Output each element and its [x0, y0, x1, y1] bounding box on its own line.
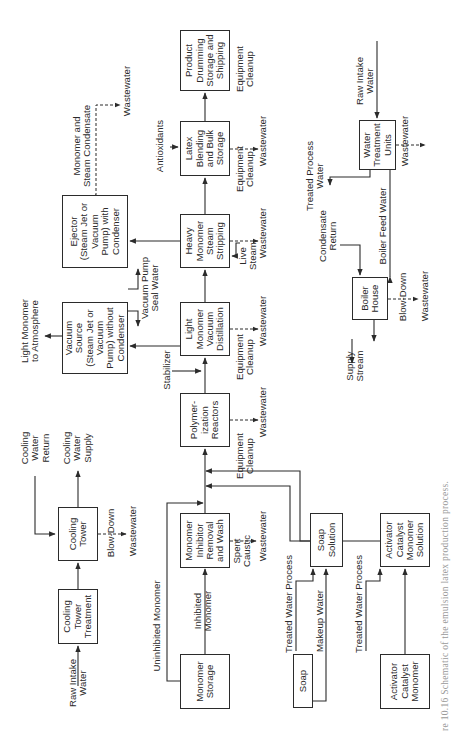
- label-uninhibited-monomer: Uninhibited Monomer: [152, 571, 162, 681]
- unit-ejector: Ejector (Steam Jet or Vacuum Pump) with …: [62, 195, 128, 268]
- unit-activator-catalyst-monomer: Activator Catalyst Monomer: [380, 654, 430, 709]
- label-equipment-cleanup-light: Equipment Cleanup: [235, 327, 256, 387]
- label-monomer-steam-condensate: Monomer and Steam Condensate: [72, 96, 93, 196]
- label-supply-stream: Supply Stream: [345, 346, 366, 386]
- unit-water-treatment: Water Treatment Units: [359, 120, 396, 170]
- unit-cooling-tower-treatment: Cooling Tower Treatment: [58, 589, 98, 644]
- unit-latex-blending: Latex Blending and Bulk Storage: [180, 121, 230, 176]
- label-treated-process-water: Treated Process Water: [305, 136, 326, 216]
- label-stabilizer: Stabilizer: [162, 345, 172, 395]
- label-blow-down-boiler: Blow-Down: [398, 269, 408, 325]
- label-equipment-cleanup-latex: Equipment Cleanup: [235, 39, 256, 99]
- label-spent-caustic: Spent Caustic: [232, 531, 253, 571]
- unit-soap-solution: Soap Solution: [310, 513, 343, 567]
- label-cooling-water-supply: Cooling Water Supply: [62, 423, 93, 473]
- unit-cooling-tower: Cooling Tower: [58, 507, 98, 561]
- unit-monomer-storage: Monomer Storage: [180, 654, 230, 709]
- unit-product-drumming: Product Drumming Storage and Shipping: [180, 30, 230, 91]
- label-light-monomer-atmosphere: Light Monomer to Atmosphere: [20, 286, 41, 376]
- unit-soap: Soap: [293, 654, 313, 708]
- label-blow-down-cooling: Blow-Down: [106, 505, 116, 561]
- label-condensate-return: Condensate Return: [318, 206, 339, 266]
- label-wastewater-boiler: Wastewater: [420, 266, 430, 326]
- label-wastewater-latex: Wastewater: [258, 111, 268, 171]
- label-wastewater-heavy: Wastewater: [258, 203, 268, 263]
- label-equipment-cleanup-reactor: Equipment Cleanup: [235, 426, 256, 486]
- label-wastewater-caustic: Wastewater: [258, 506, 268, 566]
- process-flow-diagram: Product Drumming Storage and Shipping La…: [0, 0, 457, 741]
- label-antioxidants: Antioxidants: [155, 116, 165, 176]
- label-treated-water-soap: Treated Water Process: [284, 543, 294, 653]
- unit-heavy-monomer-stripping: Heavy Monomer Steam Stripping: [180, 214, 230, 268]
- label-makeup-water: Makeup Water: [315, 581, 325, 661]
- unit-monomer-inhibitor-removal: Monomer Inhibitor Removal and Wash: [180, 513, 230, 568]
- unit-activator-solution: Activator Catalyst Monomer Solution: [380, 513, 430, 567]
- label-raw-intake-water-cooling: Raw Intake Water: [68, 653, 89, 713]
- label-wastewater-condensate: Wastewater: [122, 61, 132, 121]
- unit-light-monomer-distillation: Light Monomer Vacuum Distillation: [180, 302, 230, 356]
- label-inhibited-monomer: Inhibited Monomer: [193, 581, 214, 641]
- label-wastewater-treatment: Wastewater: [400, 111, 410, 171]
- label-live-steam: Live Steam: [238, 236, 259, 276]
- label-vacuum-pump-seal-water: Vacuum Pump Seal Water: [140, 253, 161, 323]
- label-equipment-cleanup-heavy: Equipment Cleanup: [235, 139, 256, 199]
- label-treated-water-activator: Treated Water Process: [354, 543, 364, 653]
- label-wastewater-light: Wastewater: [258, 291, 268, 351]
- label-wastewater-reactor: Wastewater: [258, 382, 268, 442]
- figure-caption: re 10.16 Schematic of the emulsion latex…: [440, 481, 450, 731]
- label-boiler-feed-water: Boiler Feed Water: [378, 181, 388, 271]
- unit-boiler-house: Boiler House: [352, 277, 388, 320]
- label-cooling-water-return: Cooling Water Return: [20, 423, 51, 473]
- unit-vacuum-source: Vacuum Source (Steam Jet or Vacuum Pump)…: [62, 302, 128, 374]
- label-raw-intake-water-treatment: Raw Intake Water: [355, 51, 376, 111]
- label-wastewater-cooling: Wastewater: [128, 501, 138, 561]
- unit-polymerization-reactors: Polymer- ization Reactors: [180, 393, 230, 447]
